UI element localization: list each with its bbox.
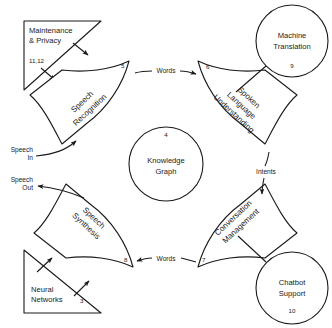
machine-translation-number: 9 (290, 62, 294, 69)
speech-recognition-number: 5 (121, 62, 125, 69)
speech-synthesis-number: 8 (124, 256, 128, 263)
chatbot-support-label-line2: Support (279, 289, 306, 298)
maintenance-privacy-number: 11,12 (29, 57, 45, 64)
knowledge-graph-label-line2: Graph (155, 167, 176, 176)
node-knowledge-graph[interactable]: Knowledge Graph 4 (129, 127, 203, 201)
architecture-diagram: Maintenance & Privacy 11,12 Neural Netwo… (0, 0, 332, 328)
conversation-management-number: 7 (202, 256, 206, 263)
slu-number: 6 (206, 63, 210, 70)
intents-label: Intents (256, 168, 276, 175)
diagram-canvas: Maintenance & Privacy 11,12 Neural Netwo… (0, 0, 332, 328)
neural-networks-arrow-lower (74, 281, 89, 296)
words-bottom-label: Words (157, 255, 177, 262)
neural-networks-label-line1: Neural (31, 285, 54, 294)
machine-translation-label-line1: Machine (278, 31, 307, 40)
machine-translation-label-line2: Translation (273, 42, 310, 51)
neural-networks-label-line2: Networks (31, 295, 63, 304)
knowledge-graph-label-line1: Knowledge (147, 156, 185, 165)
flow-words-bottom: Words (137, 255, 196, 262)
flow-words-top: Words (135, 67, 196, 74)
speech-in-arrow (36, 141, 76, 156)
words-top-arrow (180, 71, 196, 74)
speech-in-label-line2: In (28, 154, 34, 161)
neural-networks-number: 3 (80, 297, 84, 304)
knowledge-graph-number: 4 (164, 131, 168, 138)
maintenance-privacy-label-line2: & Privacy (29, 36, 61, 45)
node-speech-recognition[interactable]: Speech Recognition 5 (30, 61, 129, 144)
words-top-arrow-left-seg (135, 71, 152, 73)
node-machine-translation[interactable]: Machine Translation 9 (256, 5, 328, 77)
chatbot-support-number: 10 (289, 307, 296, 314)
words-bottom-arrow-right-seg (181, 258, 196, 262)
node-neural-networks[interactable]: Neural Networks 3 (24, 250, 101, 313)
node-speech-synthesis[interactable]: Speech Synthesis 8 (34, 184, 133, 267)
speech-out-label-line1: Speech (11, 176, 34, 184)
speech-out-label-line2: Out (22, 184, 33, 191)
chatbot-support-label-line1: Chatbot (279, 278, 306, 287)
words-top-label: Words (157, 67, 177, 74)
maintenance-arrow-upper (73, 43, 88, 55)
intents-arrow-upper-seg (265, 152, 269, 166)
words-bottom-arrow (137, 258, 152, 261)
node-chatbot-support[interactable]: Chatbot Support 10 (256, 252, 328, 324)
maintenance-privacy-label-line1: Maintenance (29, 26, 72, 35)
speech-in-label-line1: Speech (11, 146, 34, 154)
flow-speech-in: Speech In (11, 141, 76, 161)
